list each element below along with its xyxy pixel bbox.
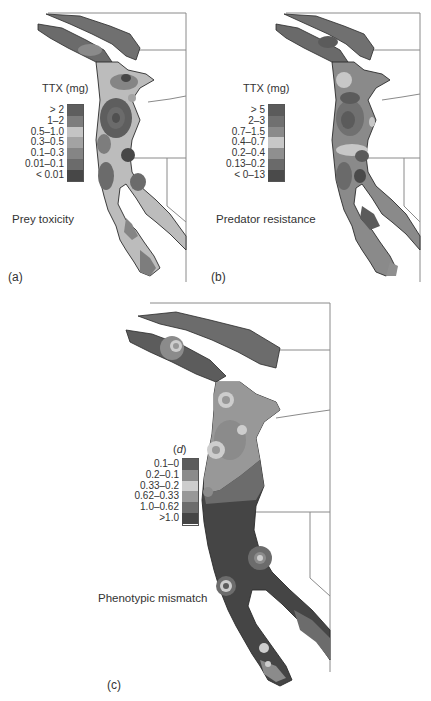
legend-swatch xyxy=(268,116,284,127)
caption-phenotypic-mismatch: Phenotypic mismatch xyxy=(98,592,207,604)
legend-item-label: 0.3–0.5 xyxy=(0,136,64,147)
legend-item-label: 0.1–0.3 xyxy=(0,147,64,158)
legend-item-label: 1–2 xyxy=(0,115,64,126)
legend-item-label: 0.13–0.2 xyxy=(195,158,265,169)
legend-swatch xyxy=(182,481,198,492)
legend-item-label: 0.5–1.0 xyxy=(0,126,64,137)
legend-swatch xyxy=(67,105,83,116)
legend-swatch xyxy=(67,148,83,159)
legend-swatch xyxy=(268,148,284,159)
legend-swatch xyxy=(268,105,284,116)
legend-swatch xyxy=(268,127,284,138)
legend-item-label: > 2 xyxy=(0,104,64,115)
legend-item-label: 0.7–1.5 xyxy=(195,126,265,137)
legend-item-label: 1.0–0.62 xyxy=(109,501,179,512)
legend-swatch xyxy=(182,491,198,502)
legend-swatch xyxy=(182,459,198,470)
legend-swatch xyxy=(67,137,83,148)
legend-title-suffix: ) xyxy=(183,443,187,455)
panel-letter-b: (b) xyxy=(211,270,226,284)
caption-predator-resistance: Predator resistance xyxy=(216,213,316,225)
legend-swatch xyxy=(67,127,83,138)
legend-title: (d) xyxy=(173,443,186,455)
caption-prey-toxicity: Prey toxicity xyxy=(12,213,74,225)
legend-swatch xyxy=(67,159,83,170)
legend-swatch xyxy=(268,159,284,170)
legend-item-label: 0.2–0.4 xyxy=(195,147,265,158)
legend-item-label: >1.0 xyxy=(109,512,179,523)
legend-swatch xyxy=(67,116,83,127)
panel-letter-a: (a) xyxy=(8,270,23,284)
legend-swatch xyxy=(182,470,198,481)
legend-swatch xyxy=(182,513,198,524)
legend-item-label: < 0–13 xyxy=(195,169,265,180)
legend-swatch xyxy=(268,137,284,148)
legend-swatch xyxy=(268,170,284,181)
legend-item-label: 0.33–0.2 xyxy=(109,480,179,491)
legend-title: TTX (mg) xyxy=(243,82,289,94)
legend-item-label: < 0.01 xyxy=(0,169,64,180)
legend-item-label: 2–3 xyxy=(195,115,265,126)
legend-swatch xyxy=(182,502,198,513)
legend-swatch xyxy=(67,170,83,181)
legend-item-label: 0.62–0.33 xyxy=(109,490,179,501)
legend-title: TTX (mg) xyxy=(42,82,88,94)
legend-item-label: 0.01–0.1 xyxy=(0,158,64,169)
legend-item-label: 0.1–0 xyxy=(109,458,179,469)
panel-letter-c: (c) xyxy=(107,678,121,692)
legend-item-label: 0.4–0.7 xyxy=(195,136,265,147)
legend-item-label: 0.2–0.1 xyxy=(109,469,179,480)
legend-item-label: > 5 xyxy=(195,104,265,115)
